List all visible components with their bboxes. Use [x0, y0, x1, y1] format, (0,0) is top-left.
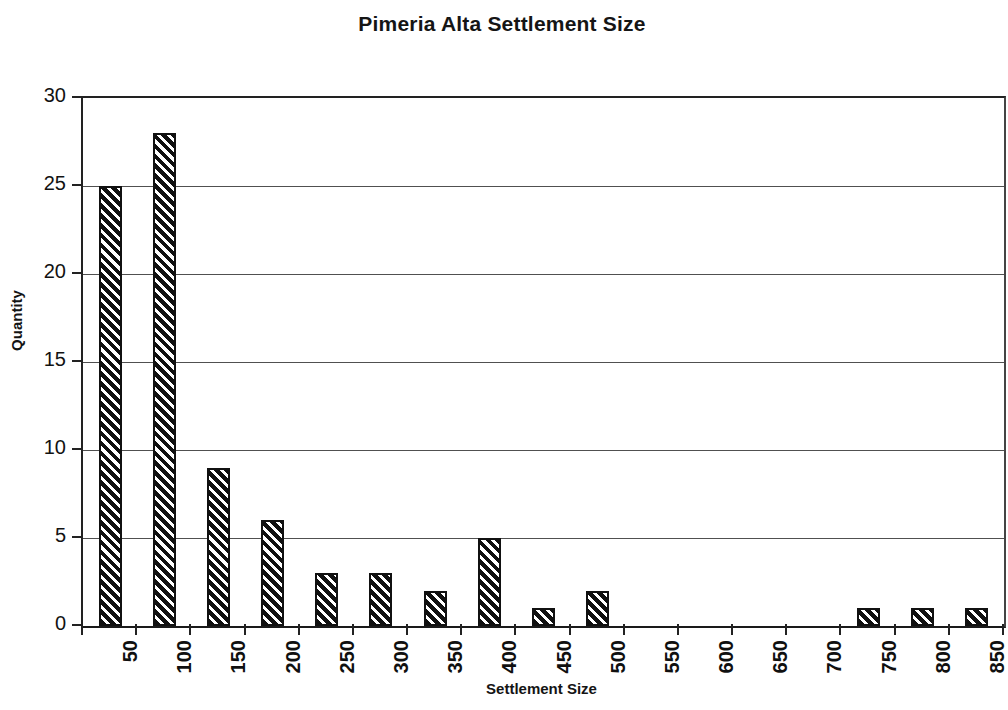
bar [153, 133, 176, 626]
bar [532, 608, 555, 626]
x-axis-tick [785, 624, 787, 635]
gridline [83, 274, 1004, 275]
x-axis-tick [352, 624, 354, 635]
bar [911, 608, 934, 626]
bar [965, 608, 988, 626]
y-axis-tick-label: 20 [8, 261, 66, 281]
x-axis-tick [569, 624, 571, 635]
bar [207, 468, 230, 626]
bar [424, 591, 447, 626]
bar [261, 520, 284, 626]
bar [369, 573, 392, 626]
bar [315, 573, 338, 626]
x-axis-tick [1002, 624, 1004, 635]
x-axis-tick [81, 624, 83, 635]
y-axis-tick [72, 184, 81, 186]
x-axis-tick [894, 624, 896, 635]
y-axis-tick [72, 448, 81, 450]
y-axis-tick-label: 25 [8, 173, 66, 193]
chart-title: Pimeria Alta Settlement Size [0, 12, 1004, 36]
x-axis-tick [189, 624, 191, 635]
x-axis-tick [514, 624, 516, 635]
x-axis-tick [298, 624, 300, 635]
y-axis-tick-label: 5 [8, 525, 66, 545]
gridline [83, 450, 1004, 451]
y-axis-tick-label: 0 [8, 613, 66, 633]
bar [857, 608, 880, 626]
gridline [83, 186, 1004, 187]
y-axis-tick [72, 536, 81, 538]
y-axis-tick [72, 96, 81, 98]
x-axis-tick [406, 624, 408, 635]
y-axis-tick [72, 624, 81, 626]
plot-area [81, 96, 1006, 628]
y-axis-tick [72, 272, 81, 274]
y-axis-tick [72, 360, 81, 362]
bar [99, 186, 122, 626]
x-axis-title: Settlement Size [81, 680, 1002, 697]
x-axis-tick [839, 624, 841, 635]
x-axis-tick [460, 624, 462, 635]
x-axis-tick [948, 624, 950, 635]
gridline [83, 362, 1004, 363]
x-axis-tick [623, 624, 625, 635]
x-axis-tick [677, 624, 679, 635]
x-axis-tick [135, 624, 137, 635]
bar [586, 591, 609, 626]
y-axis-tick-label: 30 [8, 85, 66, 105]
x-axis-tick [731, 624, 733, 635]
y-axis-tick-label: 10 [8, 437, 66, 457]
bar [478, 538, 501, 626]
y-axis-tick-label: 15 [8, 349, 66, 369]
x-axis-tick [244, 624, 246, 635]
